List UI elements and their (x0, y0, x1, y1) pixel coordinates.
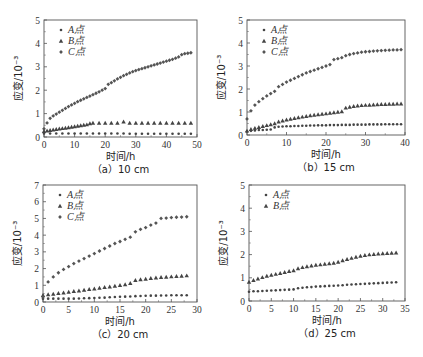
legend-label: C点 (271, 46, 289, 57)
data-point (390, 281, 393, 284)
x-tick-label: 5 (269, 304, 274, 314)
data-point (368, 123, 371, 126)
data-point (97, 121, 101, 125)
data-point (348, 124, 351, 127)
data-point (135, 132, 138, 135)
data-point (285, 80, 289, 84)
data-point (356, 51, 360, 55)
data-point (301, 286, 304, 289)
data-point (320, 112, 324, 116)
data-point (149, 64, 153, 68)
legend: A点B点C点 (59, 24, 86, 57)
data-point (375, 49, 379, 53)
data-point (300, 265, 304, 269)
data-point (113, 242, 117, 246)
data-point (328, 63, 332, 67)
data-point (164, 275, 168, 279)
data-point (316, 112, 320, 116)
data-point (266, 289, 269, 292)
data-point (92, 132, 95, 135)
data-point (336, 110, 340, 114)
data-point (158, 61, 162, 65)
data-point (179, 274, 183, 278)
x-tick-label: 50 (192, 140, 202, 150)
data-point (274, 272, 278, 276)
data-point (155, 62, 159, 66)
x-tick-label: 20 (333, 304, 343, 314)
data-point (152, 121, 156, 125)
data-point (363, 103, 367, 107)
y-tick-label: 1 (238, 108, 243, 118)
data-point (316, 67, 320, 71)
legend-marker-dot (60, 29, 63, 32)
y-tick-label: 4 (240, 204, 245, 214)
x-tick-label: 15 (311, 304, 321, 314)
y-tick-label: 4 (238, 39, 243, 49)
data-point (395, 102, 399, 106)
x-tick-label: 25 (356, 304, 366, 314)
x-tick-label: 0 (42, 140, 47, 150)
data-point (247, 280, 251, 284)
data-point (287, 269, 291, 273)
data-point (346, 283, 349, 286)
data-point (261, 124, 265, 128)
data-point (376, 123, 379, 126)
x-tick-label: 10 (282, 138, 292, 148)
data-point (308, 113, 312, 117)
y-tick-label: 4 (35, 39, 40, 49)
data-point (70, 103, 74, 107)
data-point (321, 124, 324, 127)
data-point (262, 129, 265, 132)
x-axis-label: 时间/h (105, 315, 135, 327)
data-point (98, 249, 102, 253)
legend-label: A点 (67, 24, 85, 35)
data-point (320, 65, 324, 69)
data-point (356, 123, 359, 126)
data-point (391, 48, 395, 52)
x-axis-label: 时间/h (311, 148, 341, 160)
data-point (279, 289, 282, 292)
data-point (288, 288, 291, 291)
x-axis-label: 时间/h (312, 314, 342, 326)
data-point (296, 115, 300, 119)
data-point (337, 124, 340, 127)
data-point (102, 285, 106, 289)
panel-caption: （b）15 cm (297, 162, 355, 173)
data-point (269, 122, 273, 126)
data-point (104, 132, 107, 135)
data-point (348, 53, 352, 57)
data-point (77, 259, 81, 263)
legend-label: B点 (67, 200, 84, 211)
data-point (150, 294, 153, 297)
data-point (394, 251, 398, 255)
x-axis-label: 时间/h (106, 150, 136, 162)
data-point (251, 278, 255, 282)
x-tick-label: 20 (141, 305, 151, 315)
legend-label: A点 (272, 189, 290, 200)
data-point (337, 284, 340, 287)
y-tick-label: 1 (35, 109, 40, 119)
data-point (185, 273, 189, 277)
panel-b: 010203040012345时间/h应变/10⁻³（b）15 cmA点B点C点 (215, 16, 410, 174)
data-point (318, 262, 322, 266)
legend: A点B点C点 (262, 24, 289, 57)
legend: A点B点 (264, 189, 290, 211)
x-tick-label: 30 (192, 305, 202, 315)
data-point (161, 60, 165, 64)
data-point (134, 295, 137, 298)
data-point (388, 123, 391, 126)
y-tick-label: 3 (35, 62, 40, 72)
data-point (46, 280, 50, 284)
data-point (395, 281, 398, 284)
data-point (292, 116, 296, 120)
x-tick-label: 10 (90, 305, 100, 315)
data-point (245, 129, 249, 133)
data-point (170, 294, 173, 297)
data-point (183, 52, 187, 56)
data-point (47, 297, 50, 300)
data-point (289, 78, 293, 82)
data-point (352, 52, 356, 56)
data-point (355, 104, 359, 108)
data-point (165, 294, 168, 297)
data-point (400, 123, 403, 126)
